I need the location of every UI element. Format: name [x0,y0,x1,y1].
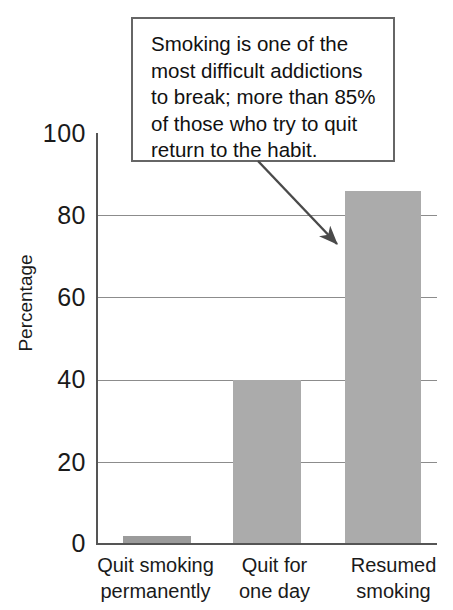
plot-area [96,133,437,544]
y-tick-0: 0 [28,531,86,556]
x-tick-line-2: permanently [96,578,215,604]
x-tick-line-2: one day [215,578,334,604]
bar-quit-for-one-day [233,380,301,544]
x-axis-line [96,543,437,545]
x-tick-line-2: smoking [334,578,453,604]
callout-line-5: return to the habit. [151,138,317,161]
x-tick-quit-for-one-day: Quit for one day [215,552,334,610]
bar-resumed-smoking [345,191,421,544]
x-tick-resumed-smoking: Resumed smoking [334,552,453,610]
x-tick-line-1: Quit smoking [96,552,215,578]
y-axis-line [96,133,98,545]
callout-line-1: Smoking is one of the [151,32,348,55]
x-tick-line-1: Quit for [215,552,334,578]
callout-line-4: of those who try to quit [151,112,357,135]
y-tick-80: 80 [28,203,86,228]
y-axis-label: Percentage [15,233,37,373]
bar-chart-figure: 100 80 60 40 20 0 Percentage Quit smokin… [0,0,453,610]
annotation-callout-text: Smoking is one of the most difficult add… [151,31,379,164]
y-tick-100: 100 [28,121,86,146]
callout-line-2: most difficult addictions [151,59,363,82]
y-tick-20: 20 [28,450,86,475]
callout-line-3: to break; more than 85% [151,85,376,108]
x-tick-quit-smoking-permanently: Quit smoking permanently [96,552,215,610]
annotation-callout-box: Smoking is one of the most difficult add… [131,17,395,162]
x-tick-line-1: Resumed [334,552,453,578]
x-axis-ticks: Quit smoking permanently Quit for one da… [96,552,453,610]
